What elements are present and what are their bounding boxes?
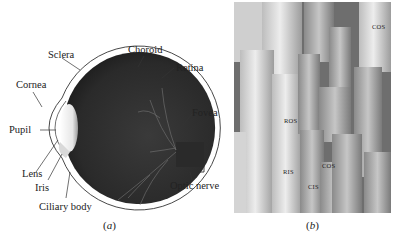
caption-a: (a) (103, 219, 116, 231)
label-cornea: Cornea (16, 79, 46, 91)
label-cos-top: COS (372, 23, 385, 30)
micrograph: ROS RIS COS COS CIS (234, 2, 391, 213)
label-ciliary-body: Ciliary body (39, 201, 92, 213)
caption-b: (b) (306, 219, 319, 231)
label-fovea: Fovea (192, 107, 218, 119)
label-iris: Iris (35, 182, 49, 194)
eye-diagram (0, 0, 234, 241)
label-sclera: Sclera (48, 49, 74, 61)
label-cos-mid: COS (322, 162, 335, 169)
label-cis: CIS (308, 183, 319, 190)
label-pupil: Pupil (9, 124, 31, 136)
label-choroid: Choroid (128, 44, 162, 56)
label-ris: RIS (283, 168, 294, 175)
label-lens: Lens (22, 168, 42, 180)
label-ros: ROS (284, 117, 297, 124)
figure: Sclera Choroid Retina Cornea Fovea Pupil… (0, 0, 398, 241)
label-retina: Retina (176, 62, 203, 74)
label-optic-nerve: Optic nerve (170, 180, 219, 192)
optic-nerve (176, 142, 204, 167)
